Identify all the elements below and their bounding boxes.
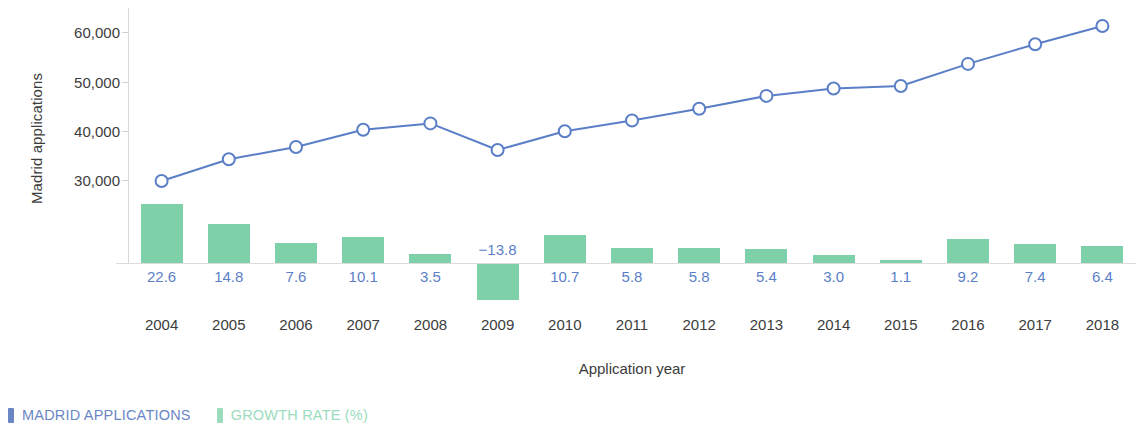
growth-rate-value-labels: 22.614.87.610.13.5−13.810.75.85.85.43.01… bbox=[128, 268, 1136, 290]
x-axis-tick-label: 2009 bbox=[463, 316, 533, 333]
x-axis-tick-label: 2008 bbox=[395, 316, 465, 333]
value-label: 14.8 bbox=[194, 268, 264, 285]
growth-rate-bars bbox=[128, 6, 1136, 264]
legend-label: MADRID APPLICATIONS bbox=[22, 407, 191, 423]
bar bbox=[275, 243, 317, 263]
bar bbox=[745, 249, 787, 263]
bar bbox=[342, 237, 384, 263]
bar bbox=[1014, 244, 1056, 263]
legend-label: GROWTH RATE (%) bbox=[231, 407, 368, 423]
x-axis-tick-label: 2016 bbox=[933, 316, 1003, 333]
legend-item-growth-rate[interactable]: GROWTH RATE (%) bbox=[217, 407, 368, 423]
value-label: 5.8 bbox=[664, 268, 734, 285]
value-label: 22.6 bbox=[127, 268, 197, 285]
x-axis-tick-labels: 2004200520062007200820092010201120122013… bbox=[128, 316, 1136, 338]
x-axis-tick-label: 2015 bbox=[866, 316, 936, 333]
value-label: 10.7 bbox=[530, 268, 600, 285]
bar bbox=[208, 224, 250, 263]
chart-legend: MADRID APPLICATIONS GROWTH RATE (%) bbox=[8, 407, 368, 423]
bar bbox=[409, 254, 451, 263]
value-label: 6.4 bbox=[1067, 268, 1137, 285]
value-label: 7.4 bbox=[1000, 268, 1070, 285]
x-axis-tick-label: 2005 bbox=[194, 316, 264, 333]
value-label: −13.8 bbox=[463, 241, 533, 258]
bar bbox=[678, 248, 720, 263]
x-axis-tick-label: 2007 bbox=[328, 316, 398, 333]
x-axis-tick-label: 2012 bbox=[664, 316, 734, 333]
value-label: 7.6 bbox=[261, 268, 331, 285]
value-label: 1.1 bbox=[866, 268, 936, 285]
x-axis-tick-label: 2006 bbox=[261, 316, 331, 333]
y-axis-title: Madrid applications bbox=[28, 29, 45, 249]
y-axis-tick-label: 60,000 bbox=[74, 24, 120, 41]
legend-swatch-icon bbox=[8, 408, 14, 423]
x-axis-tick-label: 2004 bbox=[127, 316, 197, 333]
value-label: 5.8 bbox=[597, 268, 667, 285]
bar bbox=[813, 255, 855, 263]
value-label: 5.4 bbox=[731, 268, 801, 285]
x-axis-tick-label: 2017 bbox=[1000, 316, 1070, 333]
value-label: 9.2 bbox=[933, 268, 1003, 285]
x-axis-tick-label: 2014 bbox=[799, 316, 869, 333]
legend-item-madrid-applications[interactable]: MADRID APPLICATIONS bbox=[8, 407, 191, 423]
value-label: 10.1 bbox=[328, 268, 398, 285]
y-axis-tick-label: 50,000 bbox=[74, 73, 120, 90]
bar bbox=[611, 248, 653, 263]
x-axis-tick-label: 2010 bbox=[530, 316, 600, 333]
bar bbox=[544, 235, 586, 263]
x-axis-title: Application year bbox=[128, 360, 1136, 377]
bar bbox=[141, 204, 183, 263]
value-label: 3.0 bbox=[799, 268, 869, 285]
legend-swatch-icon bbox=[217, 408, 223, 423]
bar bbox=[1081, 246, 1123, 263]
y-axis-tick-label: 40,000 bbox=[74, 122, 120, 139]
x-axis-tick-label: 2018 bbox=[1067, 316, 1137, 333]
x-axis-tick-label: 2011 bbox=[597, 316, 667, 333]
chart-container: Madrid applications 60,00050,00040,00030… bbox=[0, 0, 1144, 437]
value-label: 3.5 bbox=[395, 268, 465, 285]
y-axis-tick-labels: 60,00050,00040,00030,000 bbox=[52, 0, 120, 280]
bar bbox=[947, 239, 989, 263]
bar bbox=[880, 260, 922, 263]
y-axis-tick-label: 30,000 bbox=[74, 172, 120, 189]
x-axis-tick-label: 2013 bbox=[731, 316, 801, 333]
